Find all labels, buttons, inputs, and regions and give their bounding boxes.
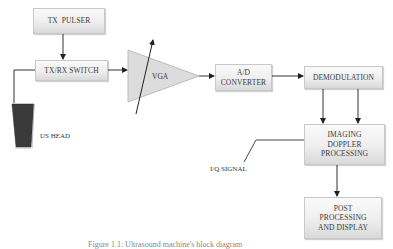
- iq-signal-leader-line: [244, 140, 304, 162]
- post-label-3: AND DISPLAY: [318, 223, 368, 233]
- post-label-2: PROCESSING: [320, 213, 367, 223]
- figure-caption: Figure 1.1: Ultrasound machine's block d…: [88, 240, 242, 249]
- txrx-switch-block: TX/RX SWITCH: [35, 60, 108, 81]
- ad-converter-block: A/D CONVERTER: [215, 64, 272, 91]
- ad-converter-label-1: A/D: [237, 68, 250, 78]
- imaging-label-3: PROCESSING: [321, 149, 368, 159]
- iq-signal-label: I/Q SIGNAL: [210, 165, 247, 173]
- us-head-label: US HEAD: [40, 132, 70, 140]
- line-switch-to-probe: [14, 70, 35, 103]
- vga-label: VGA: [152, 72, 168, 81]
- tx-pulser-block: TX PULSER: [33, 8, 105, 34]
- us-head-probe-icon: [12, 104, 34, 147]
- txrx-switch-label: TX/RX SWITCH: [44, 66, 98, 76]
- tx-pulser-label: TX PULSER: [48, 16, 91, 26]
- demodulation-block: DEMODULATION: [304, 66, 383, 89]
- post-processing-block: POST PROCESSING AND DISPLAY: [304, 197, 382, 239]
- demodulation-label: DEMODULATION: [313, 73, 374, 83]
- imaging-doppler-block: IMAGING DOPPLER PROCESSING: [304, 124, 385, 165]
- post-label-1: POST: [334, 204, 353, 214]
- ad-converter-label-2: CONVERTER: [221, 78, 266, 88]
- imaging-label-1: IMAGING: [327, 130, 361, 140]
- imaging-label-2: DOPPLER: [327, 140, 361, 150]
